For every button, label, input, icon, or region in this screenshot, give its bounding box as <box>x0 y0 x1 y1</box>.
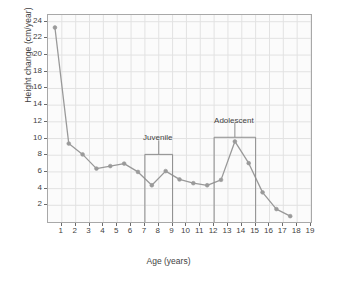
x-tick-mark <box>227 223 228 226</box>
x-tick-mark <box>213 223 214 226</box>
y-tick-label: 4 <box>0 184 42 192</box>
y-tick-label: 6 <box>0 167 42 175</box>
y-tick-label: 2 <box>0 200 42 208</box>
x-tick-mark <box>199 223 200 226</box>
x-tick-mark <box>75 223 76 226</box>
y-tick-label: 18 <box>0 67 42 75</box>
y-tick-label: 22 <box>0 33 42 41</box>
x-tick-mark <box>185 223 186 226</box>
x-tick-mark <box>61 223 62 226</box>
annotation-label-juvenile: Juvenile <box>118 133 198 142</box>
x-tick-mark <box>255 223 256 226</box>
x-tick-mark <box>116 223 117 226</box>
x-axis-label: Age (years) <box>0 256 337 266</box>
x-tick-mark <box>102 223 103 226</box>
x-tick-mark <box>89 223 90 226</box>
x-tick-label: 19 <box>300 227 320 235</box>
x-tick-mark <box>310 223 311 226</box>
y-tick-label: 10 <box>0 134 42 142</box>
y-tick-label: 16 <box>0 83 42 91</box>
x-tick-mark <box>158 223 159 226</box>
x-tick-mark <box>241 223 242 226</box>
x-tick-mark <box>130 223 131 226</box>
y-tick-label: 24 <box>0 17 42 25</box>
x-tick-mark <box>268 223 269 226</box>
x-tick-mark <box>144 223 145 226</box>
annotation-label-adolescent: Adolescent <box>194 116 274 125</box>
y-tick-label: 14 <box>0 100 42 108</box>
x-tick-mark <box>282 223 283 226</box>
chart-figure: Height change (cm/year) Age (years) 2468… <box>0 0 337 281</box>
y-tick-label: 8 <box>0 150 42 158</box>
x-tick-mark <box>296 223 297 226</box>
x-tick-mark <box>172 223 173 226</box>
y-tick-label: 12 <box>0 117 42 125</box>
y-tick-label: 20 <box>0 50 42 58</box>
